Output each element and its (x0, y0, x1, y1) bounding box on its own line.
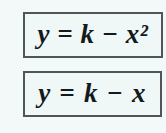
equation-box-linear: y = k − x (23, 71, 162, 117)
equation-text-quadratic: y = k − x² (38, 21, 149, 48)
equation-text-linear: y = k − x (38, 80, 147, 107)
document-page: y = k − x² y = k − x (0, 0, 166, 133)
equation-box-quadratic: y = k − x² (23, 12, 163, 58)
